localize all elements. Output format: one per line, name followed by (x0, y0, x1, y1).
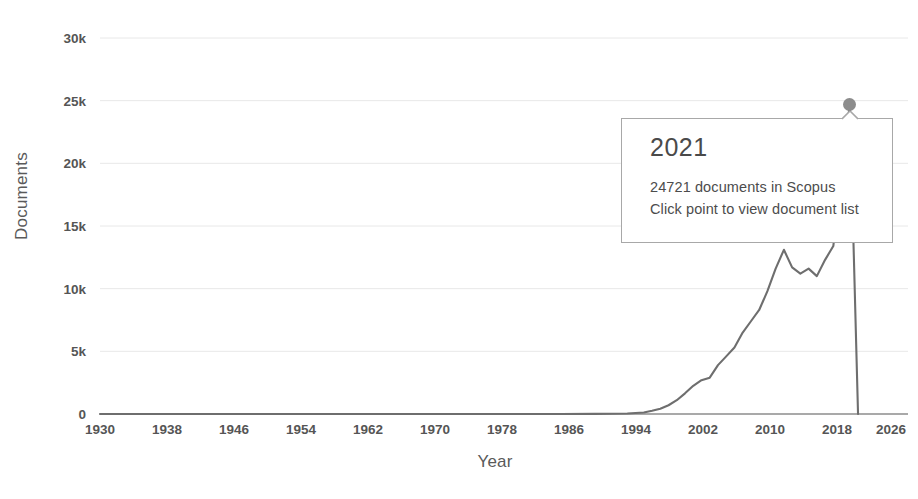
y-tick-0: 0 (34, 408, 86, 422)
y-tick-15k: 15k (34, 220, 86, 234)
y-tick-5k: 5k (34, 345, 86, 359)
tooltip-notch-icon (842, 110, 858, 120)
tooltip-hint: Click point to view document list (650, 198, 892, 220)
y-tick-25k: 25k (34, 95, 86, 109)
highlighted-datapoint-2021[interactable] (843, 98, 856, 111)
x-tick-1994: 1994 (606, 423, 666, 437)
x-tick-2010: 2010 (740, 423, 800, 437)
x-tick-1978: 1978 (472, 423, 532, 437)
x-axis-title: Year (95, 452, 895, 472)
y-tick-10k: 10k (34, 283, 86, 297)
y-axis-title: Documents (12, 116, 32, 276)
x-tick-1938: 1938 (137, 423, 197, 437)
y-tick-30k: 30k (34, 32, 86, 46)
x-tick-1986: 1986 (539, 423, 599, 437)
datapoint-tooltip[interactable]: 2021 24721 documents in Scopus Click poi… (621, 118, 893, 243)
x-tick-2026: 2026 (861, 423, 918, 437)
x-tick-1946: 1946 (204, 423, 264, 437)
tooltip-document-count: 24721 documents in Scopus (650, 176, 892, 198)
x-tick-2018: 2018 (807, 423, 867, 437)
tooltip-year: 2021 (650, 135, 892, 160)
x-tick-1954: 1954 (271, 423, 331, 437)
documents-per-year-chart: 30k 25k 20k 15k 10k 5k 0 1930 1938 1946 … (0, 0, 918, 499)
x-tick-1970: 1970 (405, 423, 465, 437)
x-tick-2002: 2002 (673, 423, 733, 437)
y-tick-20k: 20k (34, 157, 86, 171)
x-tick-1962: 1962 (338, 423, 398, 437)
x-tick-1930: 1930 (70, 423, 130, 437)
